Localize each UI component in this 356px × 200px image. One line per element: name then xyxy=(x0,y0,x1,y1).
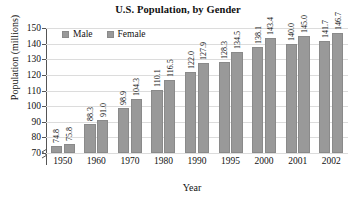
gridline xyxy=(46,153,348,154)
y-tick-label: 80 xyxy=(3,132,41,142)
x-tick-label-1990: 1990 xyxy=(188,156,207,166)
bar-value-label: 122.0 xyxy=(186,51,195,69)
x-axis-title: Year xyxy=(42,182,342,193)
x-tick-label-2000: 2000 xyxy=(255,156,274,166)
y-tick-label: 130 xyxy=(3,54,41,64)
bar-value-label: 127.9 xyxy=(199,42,208,60)
bar-group: 74.875.8 xyxy=(46,28,80,153)
y-tick-label: 100 xyxy=(3,101,41,111)
bar-male-1970[interactable]: 98.9 xyxy=(118,108,129,153)
bar-female-1960[interactable]: 91.0 xyxy=(97,120,108,153)
bar-value-label: 138.1 xyxy=(253,26,262,44)
bar-value-label: 141.7 xyxy=(320,20,329,38)
y-tick-label: 110 xyxy=(3,86,41,96)
bar-group: 128.3134.5 xyxy=(214,28,248,153)
bar-female-2002[interactable]: 146.7 xyxy=(332,33,343,153)
x-tick-label-1980: 1980 xyxy=(154,156,173,166)
x-axis-tick-labels: 195019601970198019901995200020012002 xyxy=(46,156,348,172)
bar-female-1950[interactable]: 75.8 xyxy=(64,144,75,153)
x-tick-label-2002: 2002 xyxy=(322,156,341,166)
bar-male-2002[interactable]: 141.7 xyxy=(319,41,330,153)
x-tick-label-2001: 2001 xyxy=(288,156,307,166)
legend-item-male[interactable]: Male xyxy=(62,29,93,39)
bar-female-1980[interactable]: 116.5 xyxy=(164,80,175,153)
legend-item-female[interactable]: Female xyxy=(107,29,146,39)
legend-swatch-icon xyxy=(62,31,69,38)
bar-group: 122.0127.9 xyxy=(180,28,214,153)
y-tick-mark xyxy=(42,153,46,154)
bar-value-label: 91.0 xyxy=(98,103,107,117)
bar-value-label: 104.3 xyxy=(132,78,141,96)
bar-male-2001[interactable]: 140.0 xyxy=(286,44,297,153)
chart-legend: MaleFemale xyxy=(62,29,146,39)
bar-value-label: 134.5 xyxy=(232,31,241,49)
bar-group: 88.391.0 xyxy=(80,28,114,153)
bar-group: 141.7146.7 xyxy=(314,28,348,153)
x-tick-label-1970: 1970 xyxy=(120,156,139,166)
bar-female-1990[interactable]: 127.9 xyxy=(198,63,209,153)
bar-value-label: 128.3 xyxy=(220,41,229,59)
legend-label: Male xyxy=(73,29,93,39)
bar-value-label: 140.0 xyxy=(287,23,296,41)
bar-value-label: 74.8 xyxy=(52,129,61,143)
bar-female-1995[interactable]: 134.5 xyxy=(231,52,242,153)
legend-swatch-icon xyxy=(107,31,114,38)
legend-label: Female xyxy=(118,29,146,39)
bar-male-2000[interactable]: 138.1 xyxy=(252,47,263,153)
bar-group: 140.0145.0 xyxy=(281,28,315,153)
x-tick-label-1995: 1995 xyxy=(221,156,240,166)
chart-title: U.S. Population, by Gender xyxy=(0,4,356,15)
bar-value-label: 75.8 xyxy=(65,127,74,141)
bar-value-label: 110.1 xyxy=(153,70,162,88)
bar-group: 138.1143.4 xyxy=(247,28,281,153)
y-tick-label: 140 xyxy=(3,39,41,49)
y-tick-label: 70 xyxy=(3,148,41,158)
bar-value-label: 146.7 xyxy=(333,12,342,30)
bar-value-label: 88.3 xyxy=(85,107,94,121)
y-tick-label: 150 xyxy=(3,23,41,33)
y-tick-label: 90 xyxy=(3,117,41,127)
bar-value-label: 116.5 xyxy=(165,60,174,78)
bar-female-2001[interactable]: 145.0 xyxy=(298,36,309,153)
y-axis-tick-labels: 708090100110120130140150 xyxy=(0,28,41,153)
bar-group: 110.1116.5 xyxy=(147,28,181,153)
bar-value-label: 98.9 xyxy=(119,91,128,105)
bar-male-1990[interactable]: 122.0 xyxy=(185,72,196,153)
bar-male-1950[interactable]: 74.8 xyxy=(51,146,62,154)
bar-female-1970[interactable]: 104.3 xyxy=(131,99,142,153)
y-tick-label: 120 xyxy=(3,70,41,80)
bar-female-2000[interactable]: 143.4 xyxy=(265,38,276,153)
bar-male-1960[interactable]: 88.3 xyxy=(84,124,95,153)
bar-group: 98.9104.3 xyxy=(113,28,147,153)
bar-value-label: 143.4 xyxy=(266,17,275,35)
bar-value-label: 145.0 xyxy=(300,15,309,33)
x-tick-label-1950: 1950 xyxy=(53,156,72,166)
plot-area: 74.875.888.391.098.9104.3110.1116.5122.0… xyxy=(46,28,348,153)
bar-male-1995[interactable]: 128.3 xyxy=(219,62,230,153)
x-tick-label-1960: 1960 xyxy=(87,156,106,166)
bar-male-1980[interactable]: 110.1 xyxy=(151,90,162,153)
chart-figure: U.S. Population, by Gender Population (m… xyxy=(0,0,356,200)
